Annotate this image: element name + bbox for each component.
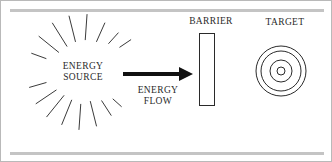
barrier-label: BARRIER xyxy=(181,16,241,27)
energy-ray-9 xyxy=(39,36,59,52)
target-shape xyxy=(256,46,306,96)
arrow-head-icon xyxy=(179,67,193,81)
energy-ray-8 xyxy=(31,53,46,58)
target-label: TARGET xyxy=(255,17,315,28)
barrier-shape xyxy=(200,34,215,106)
energy-ray-12 xyxy=(85,14,87,40)
energy-ray-10 xyxy=(52,23,67,47)
energy-ray-6 xyxy=(36,90,57,104)
energy-ray-13 xyxy=(96,23,105,42)
energy-flow-arrow xyxy=(123,67,193,81)
energy-ray-15 xyxy=(119,40,131,48)
energy-source-label: ENERGY SOURCE xyxy=(51,61,115,82)
energy-ray-14 xyxy=(108,33,118,44)
rules-group xyxy=(10,11,324,154)
energy-ray-5 xyxy=(29,82,46,87)
energy-ray-4 xyxy=(113,99,122,107)
energy-ray-1 xyxy=(79,104,81,130)
target-ring-2 xyxy=(270,60,292,82)
energy-flow-label: ENERGY FLOW xyxy=(127,85,189,106)
energy-ray-7 xyxy=(47,95,65,117)
target-ring-0 xyxy=(256,46,306,96)
diagram-figure: ENERGY SOURCE ENERGY FLOW BARRIER TARGET xyxy=(0,0,332,162)
target-ring-3 xyxy=(277,67,285,75)
energy-ray-0 xyxy=(62,100,72,125)
target-ring-1 xyxy=(261,51,301,91)
energy-ray-3 xyxy=(102,101,112,116)
energy-ray-2 xyxy=(90,101,96,126)
energy-ray-11 xyxy=(69,16,76,42)
